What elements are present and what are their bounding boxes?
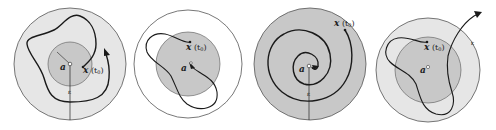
epsilon-label: ε xyxy=(471,39,474,46)
state-label: x xyxy=(185,42,192,52)
equilibrium-label: a xyxy=(60,62,66,72)
diagram-panel-asymptotic: x (t0) a ε xyxy=(250,0,380,130)
arrow-head-icon xyxy=(474,11,482,18)
panel-1-svg: a x (t0) ε xyxy=(0,0,130,130)
panel-4-svg: x (t0) a ε xyxy=(370,0,496,130)
panel-2-svg: x (t0) a xyxy=(125,0,255,130)
diagram-panel-stable: a x (t0) ε xyxy=(0,0,130,130)
epsilon-label: ε xyxy=(68,88,71,95)
equilibrium-point xyxy=(190,62,193,65)
state-label: x xyxy=(333,18,340,28)
equilibrium-label: a xyxy=(299,64,305,74)
state-time-label: (t0) xyxy=(342,19,355,28)
state-time-label: (t0) xyxy=(194,43,207,52)
start-point xyxy=(344,29,347,32)
equilibrium-point xyxy=(426,65,429,68)
diagram-panel-attractive: x (t0) a xyxy=(125,0,255,130)
epsilon-label: ε xyxy=(307,90,310,97)
equilibrium-label: a xyxy=(181,63,187,73)
state-time-label: (t0) xyxy=(91,66,104,75)
panel-3-svg: x (t0) a ε xyxy=(250,0,380,130)
equilibrium-point xyxy=(68,62,72,66)
state-label: x xyxy=(423,42,430,52)
diagram-panel-unstable: x (t0) a ε xyxy=(370,0,496,130)
state-label: x xyxy=(82,65,89,75)
equilibrium-point xyxy=(307,64,311,68)
state-time-label: (t0) xyxy=(432,43,445,52)
equilibrium-label: a xyxy=(420,65,426,75)
